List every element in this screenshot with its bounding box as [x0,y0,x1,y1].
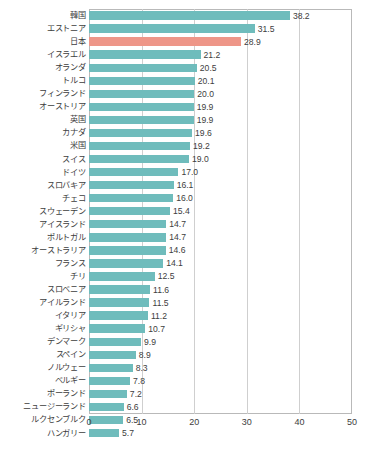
category-label: 韓国 [0,11,89,20]
category-label: オーストラリア [0,246,89,255]
bar-row: トルコ20.1 [0,74,375,87]
category-label: アイスランド [0,220,89,229]
category-label: フランス [0,259,89,268]
bar [89,324,145,332]
bar-row: デンマーク9.9 [0,335,375,348]
category-label: オランダ [0,63,89,72]
bar-track: 16.1 [89,179,352,192]
category-label: スイス [0,155,89,164]
category-label: ギリシャ [0,324,89,333]
bar-value-label: 11.2 [148,311,167,320]
bar-row: 英国19.9 [0,113,375,126]
plot-area: 韓国38.2エストニア31.5日本28.9イスラエル21.2オランダ20.5トル… [0,0,375,449]
bar-row: ドイツ17.0 [0,166,375,179]
category-label: アイルランド [0,298,89,307]
bar-track: 14.6 [89,244,352,257]
bar-track: 6.6 [89,400,352,413]
bar [89,116,194,124]
bar-value-label: 21.2 [201,50,221,59]
bar-value-label: 14.7 [166,233,186,242]
category-label: イスラエル [0,50,89,59]
category-label: カナダ [0,128,89,137]
bar-track: 28.9 [89,35,352,48]
bar-row: ギリシャ10.7 [0,322,375,335]
bar-value-label: 19.0 [189,155,209,164]
category-label: チリ [0,272,89,281]
bar-value-label: 14.7 [166,220,186,229]
bar-row: ポーランド7.2 [0,387,375,400]
bar-row: ノルウェー8.3 [0,361,375,374]
category-label: ニュージーランド [0,402,89,411]
bar-row: オーストリア19.9 [0,100,375,113]
bar [89,194,173,202]
category-label: ドイツ [0,168,89,177]
bar-row: スロバキア16.1 [0,179,375,192]
category-label: 米国 [0,141,89,150]
bar-rows: 韓国38.2エストニア31.5日本28.9イスラエル21.2オランダ20.5トル… [0,9,375,440]
bar [89,220,166,228]
bar [89,403,124,411]
x-tick-label: 0 [86,417,91,428]
bar-track: 8.3 [89,361,352,374]
bar-row: イスラエル21.2 [0,48,375,61]
bar-value-label: 19.6 [192,128,212,137]
bar-row: スペイン8.9 [0,348,375,361]
bar-row: アイルランド11.5 [0,296,375,309]
bar-track: 9.9 [89,335,352,348]
bar-value-label: 12.5 [155,272,175,281]
category-label: イタリア [0,311,89,320]
category-label: チェコ [0,194,89,203]
bar-track: 19.6 [89,126,352,139]
x-tick-label: 20 [189,417,199,428]
bar-value-label: 16.0 [173,194,193,203]
bar-value-label: 38.2 [290,11,310,20]
bar-value-label: 11.6 [150,285,169,294]
bar-track: 10.7 [89,322,352,335]
bar-track: 12.5 [89,270,352,283]
bar-track: 7.8 [89,374,352,387]
bar-row: イタリア11.2 [0,309,375,322]
bar [89,142,190,150]
category-label: ベルギー [0,376,89,385]
bar-track: 19.2 [89,139,352,152]
bar-track: 38.2 [89,9,352,22]
bar-value-label: 31.5 [255,24,275,33]
bar-row: エストニア31.5 [0,22,375,35]
bar-value-label: 15.4 [170,207,190,216]
bar-value-label: 19.2 [190,141,210,150]
bar-value-label: 8.9 [136,350,151,359]
bar [89,50,201,58]
bar [89,259,163,267]
bar-value-label: 17.0 [178,168,198,177]
bar-track: 14.7 [89,231,352,244]
bar [89,24,255,32]
bar-row: オランダ20.5 [0,61,375,74]
bar [89,351,136,359]
bar-track: 17.0 [89,166,352,179]
category-label: スウェーデン [0,207,89,216]
bar-track: 31.5 [89,22,352,35]
x-tick-label: 40 [294,417,304,428]
category-label: トルコ [0,76,89,85]
bar [89,311,148,319]
bar-value-label: 7.8 [130,376,145,385]
bar-value-label: 9.9 [141,337,156,346]
bar-value-label: 8.3 [133,363,148,372]
x-tick-label: 30 [242,417,252,428]
bar-row: スウェーデン15.4 [0,205,375,218]
bar [89,37,241,45]
category-label: ノルウェー [0,363,89,372]
bar-value-label: 28.9 [241,37,261,46]
category-label: ハンガリー [0,429,89,438]
bar-value-label: 20.0 [194,89,214,98]
bar-row: 韓国38.2 [0,9,375,22]
bar [89,298,149,306]
bar-row: スロベニア11.6 [0,283,375,296]
x-axis-tick-labels: 01020304050 [89,417,352,431]
bar [89,338,141,346]
bar-value-label: 11.5 [149,298,168,307]
bar-track: 19.9 [89,113,352,126]
category-label: フィンランド [0,89,89,98]
bar-row: ベルギー7.8 [0,374,375,387]
bar-row: チェコ16.0 [0,192,375,205]
